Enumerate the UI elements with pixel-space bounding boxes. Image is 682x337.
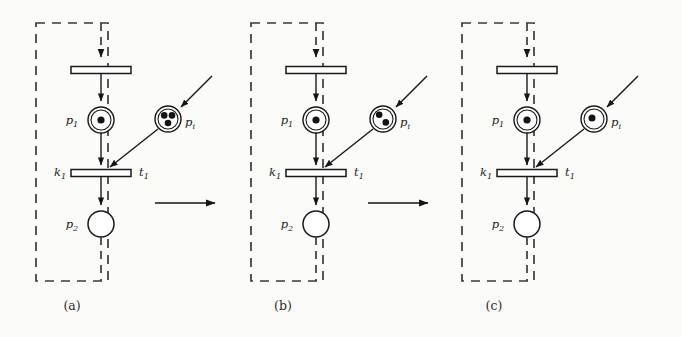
panel-b-transition-top[interactable] <box>286 67 346 74</box>
panel-c-place-p1[interactable] <box>514 107 540 133</box>
panel-a-place-p2[interactable] <box>88 211 114 237</box>
panel-b-label-p1: p1 <box>281 113 294 129</box>
panel-a-dashed-boundary <box>36 23 108 281</box>
petri-net-figure: p1 pi k1 <box>0 0 682 337</box>
panel-b-label-k1: k1 <box>269 165 281 181</box>
token <box>523 116 530 123</box>
token <box>312 116 319 123</box>
panel-b-transition-t1[interactable] <box>286 170 346 177</box>
panel-c-dashed-boundary <box>462 23 534 281</box>
panel-b: p1 pi k1 t1 <box>251 23 427 313</box>
panel-b-external-input-arc <box>396 76 427 107</box>
panel-a-transition-t1[interactable] <box>71 170 131 177</box>
panel-a-transition-top[interactable] <box>71 67 131 74</box>
panel-a-label-pi: pi <box>185 115 195 131</box>
token <box>165 120 172 127</box>
panel-b-caption: (b) <box>274 298 292 313</box>
panel-a-label-t1: t1 <box>139 165 149 181</box>
panel-a-label-p1: p1 <box>66 113 79 129</box>
panel-b-arc-pi-to-t1 <box>325 129 373 167</box>
panel-b-label-pi: pi <box>400 115 410 131</box>
panel-a-place-p1[interactable] <box>88 107 114 133</box>
panel-c-label-k1: k1 <box>480 165 492 181</box>
panel-a-label-k1: k1 <box>54 165 66 181</box>
panel-a-place-pi[interactable] <box>155 106 181 132</box>
panel-b-place-p2[interactable] <box>303 211 329 237</box>
panel-c-label-pi: pi <box>611 115 621 131</box>
panel-b-label-t1: t1 <box>354 165 364 181</box>
panel-c-transition-top[interactable] <box>497 67 557 74</box>
panel-a-arc-pi-to-t1 <box>110 129 158 167</box>
token <box>376 112 383 119</box>
token <box>589 115 596 122</box>
panel-a-external-input-arc <box>181 76 212 107</box>
panel-c-label-p2: p2 <box>492 217 505 233</box>
panel-b-place-p1[interactable] <box>303 107 329 133</box>
panel-a: p1 pi k1 <box>36 23 212 313</box>
panel-c-caption: (c) <box>486 298 503 313</box>
panel-c-arc-pi-to-t1 <box>536 129 584 167</box>
figure-canvas: p1 pi k1 <box>0 0 682 337</box>
token <box>169 112 176 119</box>
panel-a-label-p2: p2 <box>66 217 79 233</box>
panel-c: p1 pi k1 t1 <box>462 23 638 313</box>
panel-c-label-p1: p1 <box>492 113 505 129</box>
panel-b-place-pi[interactable] <box>370 106 396 132</box>
panel-b-label-p2: p2 <box>281 217 294 233</box>
token <box>383 119 390 126</box>
panel-c-external-input-arc <box>607 76 638 107</box>
panel-b-dashed-boundary <box>251 23 323 281</box>
panel-a-caption: (a) <box>63 298 80 313</box>
panel-c-label-t1: t1 <box>565 165 575 181</box>
panel-c-place-p2[interactable] <box>514 211 540 237</box>
token <box>97 116 104 123</box>
token <box>161 112 168 119</box>
panel-c-transition-t1[interactable] <box>497 170 557 177</box>
panel-c-place-pi[interactable] <box>581 106 607 132</box>
